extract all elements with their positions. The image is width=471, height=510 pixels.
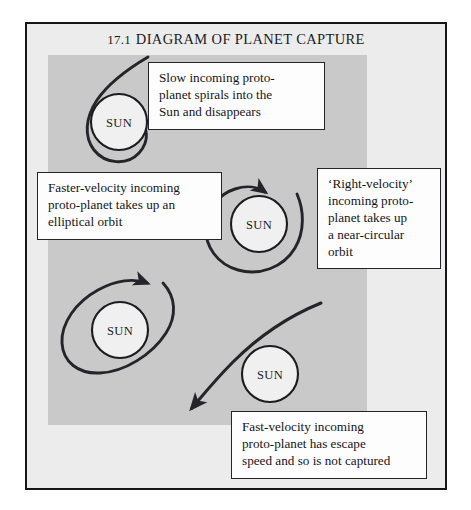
callout-line: proto-planet takes up an [48,197,212,214]
callout-line: ‘Right-velocity’ [328,176,431,193]
callout-line: Fast-velocity incoming [242,419,417,436]
figure-title-text: DIAGRAM OF PLANET CAPTURE [136,31,365,47]
callout-line: Sun and disappears [159,104,315,121]
callout-line: a near-circular [328,227,431,244]
callout-slow-incoming: Slow incoming proto- planet spirals into… [148,62,325,130]
callout-line: elliptical orbit [48,214,212,231]
planet-capture-figure: 17.1DIAGRAM OF PLANET CAPTURE SUN [0,0,471,510]
callout-line: orbit [328,244,431,261]
figure-number: 17.1 [107,32,136,47]
callout-line: planet spirals into the [159,87,315,104]
figure-title: 17.1DIAGRAM OF PLANET CAPTURE [25,31,447,48]
callout-fast-velocity: Fast-velocity incoming proto-planet has … [231,411,427,479]
callout-line: Slow incoming proto- [159,70,315,87]
callout-line: incoming proto- [328,193,431,210]
callout-line: proto-planet has escape [242,436,417,453]
callout-right-velocity: ‘Right-velocity’ incoming proto- planet … [317,168,441,269]
callout-line: speed and so is not captured [242,453,417,470]
callout-line: Faster-velocity incoming [48,180,212,197]
callout-faster-velocity: Faster-velocity incoming proto-planet ta… [37,172,222,240]
callout-line: planet takes up [328,210,431,227]
